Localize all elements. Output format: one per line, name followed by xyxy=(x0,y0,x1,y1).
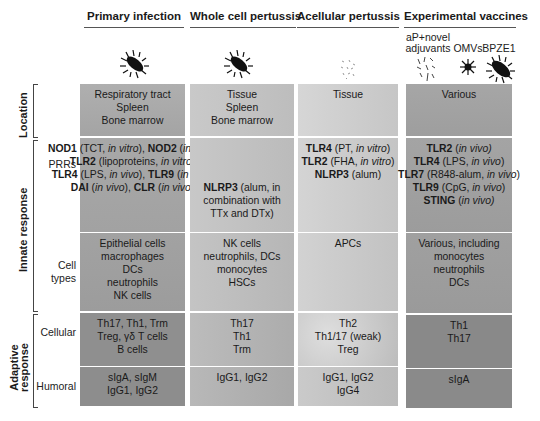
sublabel-ap-novel-adjuvants: aP+novel adjuvants xyxy=(403,32,453,54)
cell-text: NLRP3 (alum, incombination withTTx and D… xyxy=(203,181,280,220)
antigen-fragments-icon xyxy=(414,55,438,83)
cell-cell-types: NK cells neutrophils, DCs monocytes HSCs xyxy=(190,233,294,311)
column-title: Acellular pertussis xyxy=(297,10,400,22)
cell-text: IgG1, IgG2 IgG4 xyxy=(323,371,374,397)
prr-line: STING (in vivo) xyxy=(398,194,520,207)
column-header-whole-cell-pertussis: Whole cell pertussis xyxy=(190,10,296,22)
row-label-cell-types: Cell types xyxy=(36,259,76,285)
column-header-experimental-vaccines: Experimental vaccines xyxy=(404,10,516,22)
row-label-humoral: Humoral xyxy=(26,380,76,393)
cell-cell-types: Epithelial cells macrophages DCs neutrop… xyxy=(80,233,185,311)
cell-location: Various xyxy=(406,84,512,136)
cell-text: Tissue Spleen Bone marrow xyxy=(211,88,273,127)
cell-text: Th1 Th17 xyxy=(447,319,471,345)
column-title: Whole cell pertussis xyxy=(190,10,301,22)
cell-prrs: NLRP3 (alum, incombination withTTx and D… xyxy=(190,138,294,232)
bacterium-icon xyxy=(222,48,256,80)
cell-text: sIgA, sIgM IgG1, IgG2 xyxy=(107,371,158,397)
cell-location: Tissue xyxy=(298,84,398,136)
group-label-location: Location xyxy=(18,92,29,138)
prr-line: NLRP3 (alum) xyxy=(302,168,395,181)
column-title: Experimental vaccines xyxy=(404,10,528,22)
cell-location: Respiratory tract Spleen Bone marrow xyxy=(80,84,185,136)
cell-text: IgG1, IgG2 xyxy=(217,371,268,384)
bacterium-icon xyxy=(484,53,518,85)
bracket-location xyxy=(33,84,38,138)
cell-cell-types: Various, including monocytes neutrophils… xyxy=(406,233,512,313)
prr-line: TLR2 (FHA, in vitro) xyxy=(302,155,395,168)
cell-text: sIgA xyxy=(449,373,470,386)
cell-text: TLR4 (PT, in vitro)TLR2 (FHA, in vitro)N… xyxy=(302,142,395,181)
cell-text: TLR2 (in vivo)TLR4 (LPS, in vivo)TLR7 (R… xyxy=(398,142,520,207)
cell-text: Tissue xyxy=(333,88,363,101)
cell-humoral: sIgA, sIgM IgG1, IgG2 xyxy=(80,367,185,406)
column-experimental-vaccines: Various TLR2 (in vivo)TLR4 (LPS, in vivo… xyxy=(406,84,512,406)
column-header-acellular-pertussis: Acellular pertussis xyxy=(297,10,399,22)
column-title: Primary infection xyxy=(87,10,181,22)
cell-text: Respiratory tract Spleen Bone marrow xyxy=(94,88,170,127)
cell-humoral: IgG1, IgG2 IgG4 xyxy=(298,367,398,406)
prr-line: TLR4 (PT, in vitro) xyxy=(302,142,395,155)
column-header-primary-infection: Primary infection xyxy=(84,10,184,22)
column-whole-cell-pertussis: Tissue Spleen Bone marrow NLRP3 (alum, i… xyxy=(190,84,294,406)
cell-text: Various xyxy=(442,88,476,101)
bacterium-icon xyxy=(118,48,152,80)
cell-cellular: Th1 Th17 xyxy=(406,315,512,368)
prr-line: TLR2 (in vivo) xyxy=(398,142,520,155)
prr-line: TLR7 (R848-alum, in vivo) xyxy=(398,168,520,181)
cell-text: Various, including monocytes neutrophils… xyxy=(418,237,499,289)
prr-line: NLRP3 (alum, in xyxy=(203,181,280,194)
cell-text: Epithelial cells macrophages DCs neutrop… xyxy=(100,237,166,302)
cell-location: Tissue Spleen Bone marrow xyxy=(190,84,294,136)
row-label-cellular: Cellular xyxy=(30,326,76,339)
cell-cellular: Th17, Th1, Trm Treg, γδ T cells B cells xyxy=(80,313,185,366)
group-label-innate-response: Innate response xyxy=(18,188,29,272)
cell-humoral: sIgA xyxy=(406,369,512,408)
cell-humoral: IgG1, IgG2 xyxy=(190,367,294,406)
cell-cell-types: APCs xyxy=(298,233,398,311)
cell-text: Th17, Th1, Trm Treg, γδ T cells B cells xyxy=(97,317,168,356)
cell-prrs: TLR4 (PT, in vitro)TLR2 (FHA, in vitro)N… xyxy=(298,138,398,232)
cell-text: NK cells neutrophils, DCs monocytes HSCs xyxy=(204,237,281,289)
sublabel-omvs: OMVs xyxy=(453,43,483,54)
vesicle-icon xyxy=(459,58,477,76)
prr-line: TLR9 (CpG, in vivo) xyxy=(398,181,520,194)
column-acellular-pertussis: Tissue TLR4 (PT, in vitro)TLR2 (FHA, in … xyxy=(298,84,398,406)
cell-cellular: Th2 Th1/17 (weak) Treg xyxy=(298,313,398,366)
cell-text: Th17 Th1 Trm xyxy=(230,317,254,356)
cell-prrs: TLR2 (in vivo)TLR4 (LPS, in vivo)TLR7 (R… xyxy=(406,138,512,232)
cell-prrs: NOD1 (TCT, in vitro), NOD2 (in vitro)TLR… xyxy=(80,138,185,232)
cell-text: APCs xyxy=(335,237,362,250)
prr-line: combination with xyxy=(203,194,280,207)
prr-line: TTx and DTx) xyxy=(203,207,280,220)
cell-cellular: Th17 Th1 Trm xyxy=(190,313,294,366)
column-primary-infection: Respiratory tract Spleen Bone marrow NOD… xyxy=(80,84,185,406)
antigen-fragments-icon xyxy=(338,58,358,80)
cell-text: Th2 Th1/17 (weak) Treg xyxy=(315,317,381,356)
prr-line: TLR4 (LPS, in vivo) xyxy=(398,155,520,168)
